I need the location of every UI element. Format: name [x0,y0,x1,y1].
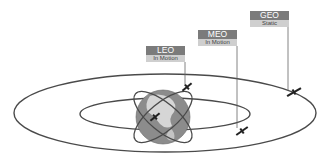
earth-globe [136,90,190,144]
meo-label-name: MEO [198,30,237,39]
meo-label: MEO In Motion [198,30,237,46]
meo-label-status: In Motion [198,39,237,46]
leo-label-status: In Motion [146,55,185,62]
leo-label: LEO In Motion [146,46,185,62]
leo-label-name: LEO [146,46,185,55]
geo-label-name: GEO [250,11,289,20]
geo-label-status: Static [250,20,289,27]
geo-label: GEO Static [250,11,289,27]
